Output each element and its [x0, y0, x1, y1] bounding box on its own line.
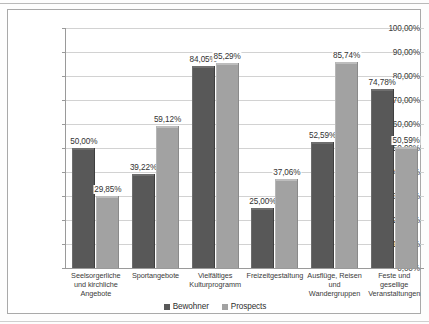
bar-value-label: 25,00% [248, 197, 277, 206]
chart-legend: BewohnerProspects [8, 302, 422, 311]
bar-bewohner[interactable]: 50,00% [72, 148, 95, 268]
bar-value-label: 29,85% [93, 185, 122, 194]
scanned-page: 100,00%90,00%80,00%70,00%60,00%50,00%40,… [0, 0, 429, 324]
bar-top-cap [336, 62, 357, 64]
bar-pair: 74,78%50,59% [364, 28, 424, 268]
x-axis-category-label: Feste und gesellige Veranstaltungen [364, 271, 424, 299]
page-edge-bottom-line [0, 321, 429, 322]
legend-label: Bewohner [173, 302, 209, 311]
bar-top-cap [133, 174, 154, 176]
bar-group: 84,05%85,29% [185, 28, 245, 268]
bar-top-cap [97, 196, 118, 198]
bar-prospects[interactable]: 59,12% [156, 126, 179, 268]
bar-prospects[interactable]: 50,59% [395, 147, 418, 268]
bar-top-cap [312, 142, 333, 144]
bar-top-cap [252, 208, 273, 210]
bar-pair: 25,00%37,06% [245, 28, 305, 268]
x-axis-category-label: Sportangebote [126, 271, 186, 299]
legend-label: Prospects [231, 302, 267, 311]
x-axis-labels: Seelsorgerliche und kirchliche AngeboteS… [66, 271, 424, 299]
bar-value-label: 85,29% [213, 52, 242, 61]
bar-group: 52,59%85,74% [305, 28, 365, 268]
bar-bewohner[interactable]: 84,05% [192, 66, 215, 268]
legend-swatch-icon [222, 304, 228, 310]
bar-bewohner[interactable]: 25,00% [251, 208, 274, 268]
bar-value-label: 59,12% [153, 115, 182, 124]
bar-pair: 50,00%29,85% [66, 28, 126, 268]
bar-value-label: 74,78% [368, 78, 397, 87]
chart-frame: 100,00%90,00%80,00%70,00%60,00%50,00%40,… [7, 9, 421, 314]
bar-bewohner[interactable]: 74,78% [371, 89, 394, 268]
bar-top-cap [396, 147, 417, 149]
bar-top-cap [372, 89, 393, 91]
bar-group: 50,00%29,85% [66, 28, 126, 268]
bar-value-label: 52,59% [308, 131, 337, 140]
bar-top-cap [217, 63, 238, 65]
bar-value-label: 37,06% [272, 168, 301, 177]
legend-swatch-icon [164, 304, 170, 310]
x-axis-category-label: Seelsorgerliche und kirchliche Angebote [66, 271, 126, 299]
bar-prospects[interactable]: 85,74% [335, 62, 358, 268]
bar-value-label: 39,22% [129, 163, 158, 172]
legend-item-bewohner[interactable]: Bewohner [164, 302, 209, 311]
bar-value-label: 50,59% [392, 136, 421, 145]
bar-groups: 50,00%29,85%39,22%59,12%84,05%85,29%25,0… [66, 28, 424, 268]
bar-value-label: 50,00% [69, 137, 98, 146]
bar-bewohner[interactable]: 52,59% [311, 142, 334, 268]
bar-prospects[interactable]: 29,85% [96, 196, 119, 268]
bar-top-cap [193, 66, 214, 68]
bar-bewohner[interactable]: 39,22% [132, 174, 155, 268]
legend-item-prospects[interactable]: Prospects [222, 302, 267, 311]
bar-pair: 84,05%85,29% [185, 28, 245, 268]
page-edge-top-line [0, 3, 429, 4]
bar-value-label: 85,74% [332, 51, 361, 60]
bar-top-cap [73, 148, 94, 150]
bar-prospects[interactable]: 37,06% [275, 179, 298, 268]
bar-top-cap [157, 126, 178, 128]
x-axis-line [65, 268, 424, 269]
x-axis-category-label: Freizeitgestaltung [245, 271, 305, 299]
bar-prospects[interactable]: 85,29% [216, 63, 239, 268]
bar-group: 25,00%37,06% [245, 28, 305, 268]
x-axis-category-label: Ausflüge, Reisen und Wandergruppen [305, 271, 365, 299]
x-axis-category-label: Vielfältiges Kulturprogramm [185, 271, 245, 299]
bar-top-cap [276, 179, 297, 181]
bar-group: 74,78%50,59% [364, 28, 424, 268]
bar-pair: 52,59%85,74% [305, 28, 365, 268]
bar-group: 39,22%59,12% [126, 28, 186, 268]
bar-pair: 39,22%59,12% [126, 28, 186, 268]
